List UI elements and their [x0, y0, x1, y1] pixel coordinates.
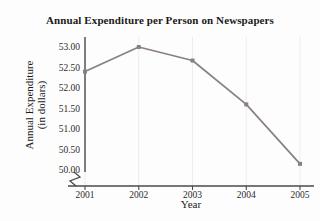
data-point-marker: [244, 102, 248, 106]
x-tick-label: 2004: [237, 190, 256, 200]
data-point-marker: [137, 45, 141, 49]
y-tick-label: 52.50: [59, 63, 81, 73]
data-point-marker: [191, 59, 195, 63]
y-tick-label: 51.50: [59, 104, 81, 114]
x-tick-label: 2005: [291, 190, 310, 200]
data-point-marker: [298, 162, 302, 166]
y-tick-label: 50.50: [59, 145, 81, 155]
y-tick-label: 52.00: [59, 83, 81, 93]
y-axis-tick-labels: 50.0050.5051.0051.5052.0052.5053.00: [59, 42, 81, 175]
x-axis-title: Year: [181, 198, 202, 210]
data-point-marker: [83, 70, 87, 74]
y-tick-label: 53.00: [59, 42, 81, 52]
chart-figure: Annual Expenditure per Person on Newspap…: [0, 0, 320, 221]
y-tick-label: 51.00: [59, 124, 81, 134]
y-axis-title-line1: Annual Expenditure: [23, 60, 35, 149]
x-tick-label: 2001: [76, 190, 95, 200]
line-chart-plot: 50.0050.5051.0051.5052.0052.5053.00 2001…: [0, 0, 320, 221]
x-tick-label: 2002: [129, 190, 148, 200]
y-axis-title-line2: (in dollars): [35, 80, 48, 129]
y-tick-label: 50.00: [59, 165, 81, 175]
